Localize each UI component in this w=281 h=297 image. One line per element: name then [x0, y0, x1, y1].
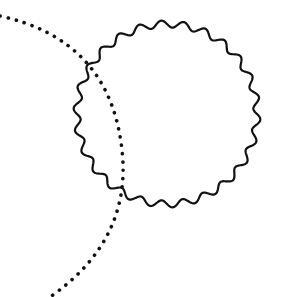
dotted-arc-shape [0, 16, 123, 297]
wavy-circle-shape [74, 21, 261, 208]
figure-canvas [0, 0, 281, 297]
